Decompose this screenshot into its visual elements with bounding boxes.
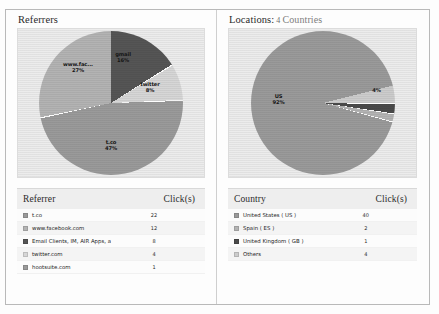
analytics-dashboard: Referrers gmail 16% twitter 8% www.fac..…: [0, 0, 439, 314]
clicks-cell: 40: [323, 209, 418, 222]
color-swatch-icon: [23, 213, 28, 218]
referrers-slice-label-twitter: twitter 8%: [131, 81, 169, 94]
table-row[interactable]: twitter.com 4: [17, 248, 205, 261]
referrers-col-referrer: Referrer: [17, 189, 111, 209]
table-row[interactable]: United Kingdom ( GB ) 1: [228, 235, 417, 248]
locations-count-label: Countries: [282, 14, 322, 25]
color-swatch-icon: [23, 265, 28, 270]
color-swatch-icon: [234, 213, 239, 218]
referrers-table-body: t.co 22 www.facebook.com 12: [17, 209, 205, 274]
color-swatch-icon: [23, 252, 28, 257]
table-row[interactable]: Email Clients, IM, AIR Apps, and Direct …: [17, 235, 205, 248]
country-cell: Others: [228, 248, 323, 261]
table-row[interactable]: hootsuite.com 1: [17, 261, 205, 274]
referrers-slice-label-facebook: www.fac... 27%: [57, 61, 99, 74]
country-cell: United Kingdom ( GB ): [228, 235, 323, 248]
locations-slice-label-us: US 92%: [263, 93, 295, 106]
referrers-pie-wrap: gmail 16% twitter 8% www.fac... 27% t.co…: [39, 31, 183, 175]
clicks-cell: 8: [111, 235, 205, 248]
table-row[interactable]: Others 4: [228, 248, 417, 261]
locations-pie-wrap: US 92% 4%: [251, 31, 395, 175]
table-row[interactable]: t.co 22: [17, 209, 205, 222]
referrer-cell: hootsuite.com: [17, 261, 111, 274]
table-header-row: Referrer Click(s): [17, 189, 205, 209]
locations-col-clicks: Click(s): [323, 189, 418, 209]
locations-chart-box: US 92% 4%: [228, 28, 417, 178]
referrers-col-clicks: Click(s): [111, 189, 205, 209]
referrer-cell: Email Clients, IM, AIR Apps, and Direct: [17, 235, 111, 248]
referrers-slice-label-tco: t.co 47%: [93, 139, 129, 152]
locations-title-text: Locations:: [229, 14, 274, 25]
clicks-cell: 22: [111, 209, 205, 222]
color-swatch-icon: [23, 239, 28, 244]
referrers-table: Referrer Click(s) t.co 22: [17, 189, 205, 274]
referrers-panel-title: Referrers: [6, 10, 216, 28]
clicks-cell: 4: [111, 248, 205, 261]
referrer-cell: twitter.com: [17, 248, 111, 261]
locations-panel-title: Locations:4Countries: [217, 10, 428, 28]
referrers-table-head: Referrer Click(s): [17, 189, 205, 209]
referrer-cell: t.co: [17, 209, 111, 222]
color-swatch-icon: [234, 239, 239, 244]
table-header-row: Country Click(s): [228, 189, 417, 209]
referrers-title-text: Referrers: [18, 14, 58, 25]
country-cell: Spain ( ES ): [228, 222, 323, 235]
clicks-cell: 1: [323, 235, 418, 248]
referrers-slice-label-gmail: gmail 16%: [105, 51, 141, 64]
color-swatch-icon: [234, 252, 239, 257]
table-row[interactable]: www.facebook.com 12: [17, 222, 205, 235]
table-row[interactable]: Spain ( ES ) 2: [228, 222, 417, 235]
clicks-cell: 2: [323, 222, 418, 235]
referrers-table-wrap: Referrer Click(s) t.co 22: [17, 188, 205, 274]
locations-table-head: Country Click(s): [228, 189, 417, 209]
locations-col-country: Country: [228, 189, 323, 209]
referrers-chart-box: gmail 16% twitter 8% www.fac... 27% t.co…: [17, 28, 205, 178]
clicks-cell: 4: [323, 248, 418, 261]
locations-slice-label-spain: 4%: [367, 87, 387, 93]
locations-table-body: United States ( US ) 40 Spain ( ES ) 2: [228, 209, 417, 261]
locations-count: 4: [276, 16, 280, 25]
panel-locations: Locations:4Countries US 92% 4%: [217, 10, 428, 304]
clicks-cell: 1: [111, 261, 205, 274]
table-row[interactable]: United States ( US ) 40: [228, 209, 417, 222]
color-swatch-icon: [23, 226, 28, 231]
panel-referrers: Referrers gmail 16% twitter 8% www.fac..…: [6, 10, 217, 304]
country-cell: United States ( US ): [228, 209, 323, 222]
clicks-cell: 12: [111, 222, 205, 235]
color-swatch-icon: [234, 226, 239, 231]
locations-table: Country Click(s) United States ( US ) 40: [228, 189, 417, 261]
referrer-cell: www.facebook.com: [17, 222, 111, 235]
locations-table-wrap: Country Click(s) United States ( US ) 40: [228, 188, 417, 261]
panels-container: Referrers gmail 16% twitter 8% www.fac..…: [6, 10, 429, 304]
